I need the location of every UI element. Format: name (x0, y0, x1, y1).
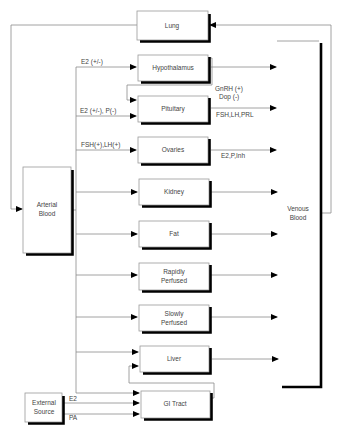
venous-to-lung-line (210, 25, 331, 213)
liver-label: Liver (167, 355, 182, 362)
slowly-perfused-label-line1: Slowly (165, 310, 185, 318)
ovaries-box: Ovaries (138, 137, 210, 165)
arterial-blood-box: Arterial Blood (23, 167, 73, 255)
gnrh-label: GnRH (+) (215, 85, 243, 93)
fat-label: Fat (169, 230, 179, 237)
gi-tract-box: GI Tract (141, 391, 212, 420)
lung-label: Lung (165, 22, 180, 30)
external-source-label-line2: Source (34, 408, 55, 415)
hypothalamus-box: Hypothalamus (138, 55, 210, 83)
pituitary-label: Pituitary (161, 105, 185, 113)
gi-tract-label: GI Tract (163, 400, 186, 407)
venous-blood-label-line1: Venous (287, 205, 309, 212)
slowly-perfused-box: Slowly Perfused (139, 305, 211, 333)
hypothalamus-input-label: E2 (+/-) (81, 58, 103, 66)
ovaries-label: Ovaries (162, 146, 185, 153)
rapidly-perfused-label-line2: Perfused (161, 277, 187, 284)
external-source-label-line1: External (32, 399, 56, 406)
dop-label: Dop (-) (219, 93, 239, 101)
kidney-box: Kidney (139, 179, 211, 207)
ovaries-output-label: E2,P,Inh (221, 152, 245, 159)
external-source-box: External Source (25, 393, 64, 424)
kidney-label: Kidney (164, 188, 185, 196)
slowly-perfused-label-line2: Perfused (161, 319, 187, 326)
lung-box: Lung (137, 11, 210, 42)
arterial-blood-label-line1: Arterial (37, 201, 58, 208)
liver-box: Liver (140, 346, 211, 374)
ovaries-input-label: FSH(+),LH(+) (81, 141, 120, 149)
pituitary-input-label: E2 (+/-), P(-) (80, 107, 116, 115)
fat-box: Fat (139, 221, 211, 249)
arterial-blood-label-line2: Blood (39, 210, 56, 217)
pituitary-output-label: FSH,LH,PRL (216, 111, 254, 118)
external-pa-label: PA (69, 414, 78, 421)
hypothalamus-label: Hypothalamus (152, 64, 194, 72)
venous-blood-label-line2: Blood (290, 214, 307, 221)
rapidly-perfused-box: Rapidly Perfused (139, 263, 211, 292)
rapidly-perfused-label-line1: Rapidly (163, 268, 185, 276)
external-e2-label: E2 (69, 395, 77, 402)
pituitary-box: Pituitary (138, 96, 210, 124)
pbpk-diagram: Lung Hypothalamus Pituitary Ovaries Kidn… (0, 0, 342, 433)
